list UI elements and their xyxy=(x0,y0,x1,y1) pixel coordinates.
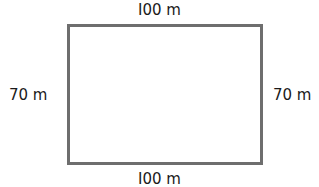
top-side-label: I00 m xyxy=(138,3,181,18)
rectangle-shape xyxy=(67,24,263,165)
left-side-label: 70 m xyxy=(9,88,47,103)
bottom-side-label: I00 m xyxy=(138,172,181,187)
right-side-label: 70 m xyxy=(273,88,311,103)
